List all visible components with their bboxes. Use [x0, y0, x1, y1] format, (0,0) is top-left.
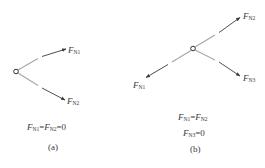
member-line-n1 — [18, 59, 38, 71]
force-arrow-n2 — [42, 88, 65, 100]
member-line-n3 — [195, 50, 215, 60]
force-arrow-n2 — [219, 18, 240, 33]
force-label-b-n3: FN3 — [243, 74, 255, 84]
caption-a: (a) — [48, 143, 58, 152]
panel-b-diagram — [146, 18, 240, 78]
node-joint-icon — [191, 46, 196, 51]
member-line-n2 — [195, 35, 215, 47]
force-label-b-n2: FN2 — [243, 12, 255, 22]
node-joint-icon — [14, 69, 19, 74]
force-arrow-n1 — [146, 65, 168, 78]
equation-b-1: FN1=FN2 — [178, 113, 208, 123]
member-line-n2 — [18, 73, 38, 86]
force-label-b-n1: FN1 — [133, 81, 145, 91]
equation-b-2: FN3=0 — [183, 129, 205, 139]
member-line-n1 — [172, 51, 191, 63]
force-label-a-n2: FN2 — [67, 97, 79, 107]
force-arrow-n3 — [219, 62, 240, 76]
force-label-a-n1: FN1 — [68, 46, 80, 56]
equation-a-1: FN1=FN2=0 — [27, 123, 66, 133]
force-arrow-n1 — [42, 49, 66, 57]
caption-b: (b) — [190, 145, 201, 154]
panel-a-diagram — [14, 49, 66, 100]
